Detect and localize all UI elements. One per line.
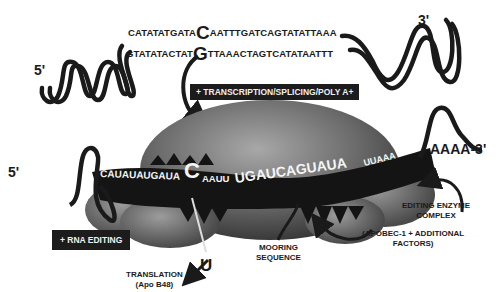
transcription-step-label: + TRANSCRIPTION/SPLICING/POLY A+ <box>190 84 359 100</box>
dna-right-coil <box>342 20 459 88</box>
dna-top-strand: CATATATGATACAATTTGATCAGTATATTAAA <box>128 22 337 44</box>
translation-label: TRANSLATION(Apo B48) <box>126 270 183 290</box>
mrna-sequence-mid: AAUU <box>202 173 229 184</box>
mrna-edited-base: C <box>184 158 200 184</box>
apobec-factors-label: (APOBEC-1 + ADDITIONALFACTORS) <box>362 229 464 249</box>
editing-enzyme-complex-label: EDITING ENZYMECOMPLEX <box>402 201 470 221</box>
dna-5prime-label: 5' <box>34 62 45 78</box>
dna-bottom-strand: GTATATACTATGTTAAACTAGTCATATAATTT <box>126 43 333 65</box>
mooring-sequence-label: MOORINGSEQUENCE <box>256 243 301 263</box>
dna-3prime-label: 3' <box>418 12 429 28</box>
dna-left-coil <box>42 46 134 102</box>
rna-editing-step-label: + RNA EDITING <box>52 230 130 250</box>
mrna-5prime-label: 5' <box>8 164 19 180</box>
mrna-3prime-label: AAAA-3' <box>430 141 486 157</box>
edited-base-u: U <box>200 256 212 276</box>
